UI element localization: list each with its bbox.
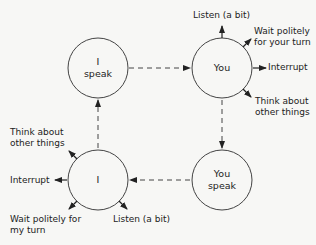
node-you-label: You (202, 62, 242, 74)
node-i-label: I (78, 174, 118, 186)
node-i-speak-label: I speak (78, 56, 118, 80)
arrow-i-listen (119, 201, 127, 209)
i-think-label: Think about other things (10, 127, 65, 149)
i-wait-label: Wait politely for my turn (10, 214, 81, 236)
you-think-label: Think about other things (255, 96, 310, 118)
arrow-i-think (69, 151, 77, 159)
arrow-you-think (243, 89, 251, 97)
i-listen-label: Listen (a bit) (113, 214, 170, 225)
you-listen-label: Listen (a bit) (193, 10, 250, 21)
you-interrupt-label: Interrupt (268, 62, 308, 73)
i-interrupt-label: Interrupt (10, 175, 50, 186)
arrow-i-wait (69, 201, 77, 209)
node-you-speak-label: You speak (202, 168, 242, 192)
arrow-you-wait (243, 39, 251, 47)
you-wait-label: Wait politely for your turn (254, 26, 311, 48)
